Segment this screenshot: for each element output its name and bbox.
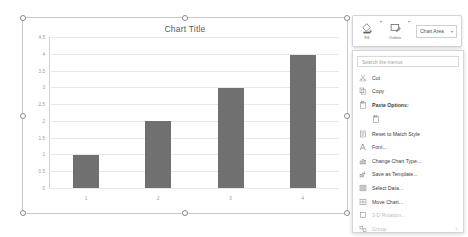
chart-object[interactable]: Chart Title 4.543.532.521.510.50 1234 <box>22 17 348 214</box>
powerpoint-chart-canvas: Chart Title 4.543.532.521.510.50 1234 <box>0 0 468 237</box>
chart-plot-area[interactable]: 4.543.532.521.510.50 1234 <box>49 38 339 189</box>
x-axis-tick-label: 1 <box>50 196 122 201</box>
bar-slot <box>122 38 194 188</box>
move-chart-icon <box>359 198 367 206</box>
resize-handle-middle-right[interactable] <box>344 113 350 119</box>
outline-label: Outline <box>389 36 401 40</box>
y-axis-tick-label: 0 <box>42 186 45 191</box>
context-menu-items: CutCopyPaste Options:Reset to Match Styl… <box>353 71 463 236</box>
bar-slot <box>195 38 267 188</box>
menu-item-change-chart-type[interactable]: Change Chart Type... <box>353 154 463 168</box>
copy-icon <box>359 87 367 95</box>
outline-dropdown-caret[interactable]: ▾ <box>408 19 410 24</box>
menu-item-label: Select Data... <box>372 185 403 191</box>
search-the-menus-input[interactable]: Search the menus <box>357 56 459 67</box>
y-axis-tick-label: 1.5 <box>39 135 45 140</box>
change-chart-type-icon <box>359 157 367 165</box>
bar-series[interactable] <box>50 38 339 188</box>
chart-title[interactable]: Chart Title <box>23 24 347 34</box>
x-axis-tick-label: 4 <box>267 196 339 201</box>
menu-item-save-as-template[interactable]: Save as Template... <box>353 168 463 182</box>
save-template-icon <box>359 170 367 178</box>
menu-item-reset-to-match-style[interactable]: Reset to Match Style <box>353 127 463 141</box>
bar-2[interactable] <box>145 121 171 188</box>
chart-element-selector-value: Chart Area <box>420 28 444 34</box>
menu-item-label: Copy <box>372 88 384 94</box>
outline-button[interactable]: Outline <box>385 22 405 40</box>
gridline: 0 <box>49 188 339 189</box>
menu-item-label: Move Chart... <box>372 199 403 205</box>
y-axis-tick-label: 3.5 <box>39 68 45 73</box>
y-axis-tick-label: 1 <box>42 152 45 157</box>
reset-style-icon <box>359 130 367 138</box>
menu-item-paste-options[interactable]: Paste Options: <box>353 98 463 112</box>
menu-item-font[interactable]: Font... <box>353 140 463 154</box>
menu-item-group: Group› <box>353 222 463 236</box>
group-icon <box>359 225 367 233</box>
menu-item-label: Paste Options: <box>372 102 409 108</box>
search-placeholder: Search the menus <box>362 59 403 65</box>
menu-item-3-d-rotation: 3-D Rotation... <box>353 208 463 222</box>
outline-icon <box>390 22 401 35</box>
bar-4[interactable] <box>290 55 316 188</box>
y-axis-tick-label: 2 <box>42 118 45 123</box>
x-axis-tick-label: 2 <box>122 196 194 201</box>
rotation-icon <box>359 211 367 219</box>
menu-item-label: Cut <box>372 75 380 81</box>
menu-item-cut[interactable]: Cut <box>353 71 463 85</box>
menu-item-label: 3-D Rotation... <box>372 212 405 218</box>
resize-handle-top-left[interactable] <box>20 15 26 21</box>
x-axis-tick-label: 3 <box>195 196 267 201</box>
menu-item-label: Change Chart Type... <box>372 158 421 164</box>
mini-toolbar: Fill ▾ Outline ▾ Chart Area ▾ <box>352 15 462 47</box>
menu-item-move-chart[interactable]: Move Chart... <box>353 195 463 209</box>
x-axis-labels: 1234 <box>50 196 339 201</box>
font-icon <box>359 143 367 151</box>
chevron-down-icon: ▾ <box>451 29 453 34</box>
context-menu: Search the menus CutCopyPaste Options:Re… <box>352 50 464 233</box>
resize-handle-top-center[interactable] <box>182 15 188 21</box>
cut-icon <box>359 74 367 82</box>
resize-handle-bottom-left[interactable] <box>20 210 26 216</box>
menu-item-label: Reset to Match Style <box>372 131 420 137</box>
menu-item-label: Save as Template... <box>372 171 417 177</box>
chart-element-selector[interactable]: Chart Area ▾ <box>416 25 457 38</box>
y-axis-tick-label: 3 <box>42 85 45 90</box>
resize-handle-middle-left[interactable] <box>20 113 26 119</box>
bar-3[interactable] <box>218 88 244 188</box>
resize-handle-bottom-center[interactable] <box>182 210 188 216</box>
menu-item-copy[interactable]: Copy <box>353 85 463 99</box>
select-data-icon <box>359 184 367 192</box>
y-axis-tick-label: 0.5 <box>39 169 45 174</box>
y-axis-tick-label: 4 <box>42 51 45 56</box>
paste-icon <box>372 115 380 123</box>
y-axis-tick-label: 4.5 <box>39 35 45 40</box>
fill-icon <box>362 22 373 35</box>
fill-dropdown-caret[interactable]: ▾ <box>380 19 382 24</box>
submenu-arrow-icon: › <box>456 226 458 231</box>
menu-item-label: Group <box>372 226 386 232</box>
bar-slot <box>50 38 122 188</box>
resize-handle-bottom-right[interactable] <box>344 210 350 216</box>
paste-option-keep-source-formatting-button[interactable] <box>353 112 463 127</box>
menu-item-select-data[interactable]: Select Data... <box>353 181 463 195</box>
fill-label: Fill <box>365 36 370 40</box>
resize-handle-top-right[interactable] <box>344 15 350 21</box>
bar-slot <box>267 38 339 188</box>
y-axis-tick-label: 2.5 <box>39 102 45 107</box>
fill-button[interactable]: Fill <box>357 22 377 40</box>
menu-item-label: Font... <box>372 144 387 150</box>
bar-1[interactable] <box>73 155 99 188</box>
paste-icon <box>359 101 367 109</box>
